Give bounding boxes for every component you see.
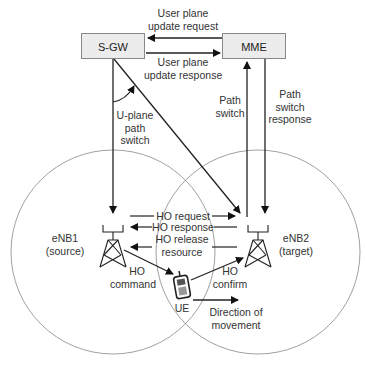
ho-command-label: HO command	[108, 265, 158, 290]
ho-confirm-label: HO confirm	[210, 265, 250, 290]
path-switch-label: Path switch	[214, 94, 246, 119]
sgw-label: S-GW	[98, 41, 128, 53]
enb1-tower-icon	[100, 225, 126, 267]
mme-label: MME	[241, 41, 267, 53]
path-switch-response-label: Path switch response	[267, 88, 313, 126]
user-plane-update-request-label: User plane update request	[148, 7, 218, 32]
enb1-label: eNB1 (source)	[42, 232, 88, 257]
uplane-path-switch-label: U-plane path switch	[115, 109, 155, 147]
mme-node: MME	[222, 33, 286, 59]
direction-of-movement-label: Direction of movement	[206, 306, 266, 331]
ho-release-resource-label: HO release resource	[150, 233, 214, 258]
ho-response-label: HO response	[150, 221, 216, 234]
sgw-node: S-GW	[81, 33, 145, 59]
enb2-tower-icon	[245, 225, 271, 267]
user-plane-update-response-label: User plane update response	[144, 56, 222, 81]
enb2-label: eNB2 (target)	[273, 232, 319, 257]
ue-phone-icon	[173, 271, 191, 299]
ue-label: UE	[170, 302, 194, 315]
